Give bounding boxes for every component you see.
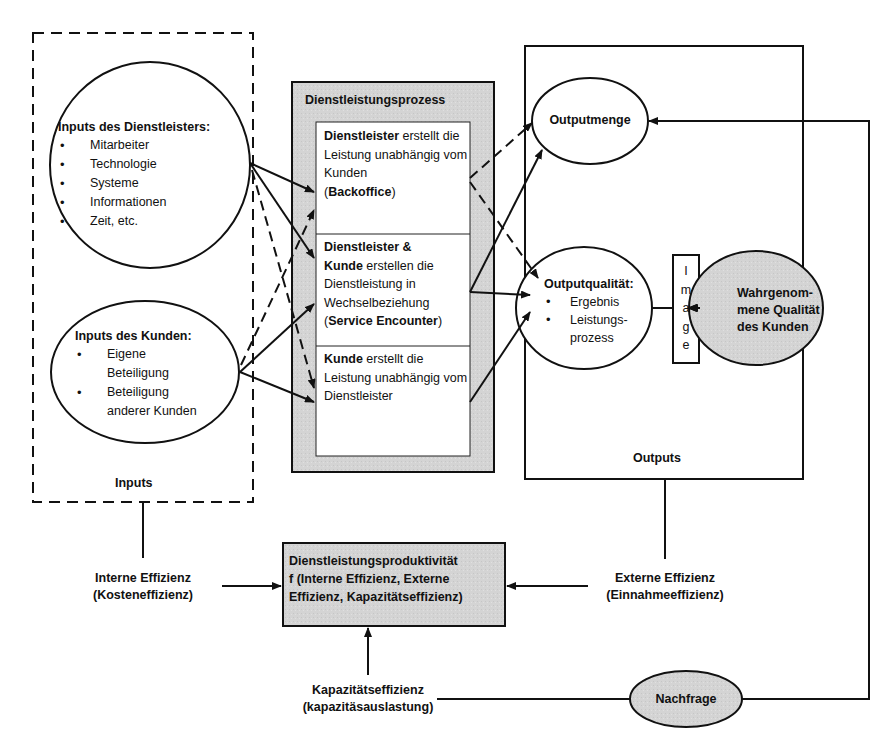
image-letter: m <box>673 281 699 300</box>
customer-input-line: Beteiligung <box>107 385 169 399</box>
provider-inputs-block: Inputs des Dienstleisters: Mitarbeiter T… <box>58 119 258 231</box>
output-quality-item: Ergebnis <box>544 293 654 311</box>
process-title: Dienstleistungsprozess <box>305 92 445 109</box>
provider-inputs-title: Inputs des Dienstleisters: <box>58 119 258 136</box>
process-cell-bold: Dienstleister & <box>324 240 412 254</box>
customer-input-item: Beteiligunganderer Kunden <box>75 383 235 421</box>
output-quality-line: Leistungs- <box>570 313 628 327</box>
image-letter: a <box>673 299 699 318</box>
process-cell-bold: Service Encounter <box>328 314 438 328</box>
provider-input-item: Systeme <box>58 174 258 193</box>
inputs-group-label: Inputs <box>115 475 153 492</box>
image-letter: g <box>673 318 699 337</box>
customer-input-line: anderer Kunden <box>107 404 197 418</box>
process-cell-bold: Backoffice <box>328 185 391 199</box>
capacity-efficiency-line: (kapazitäsauslastung) <box>298 699 438 716</box>
image-letter: e <box>673 336 699 355</box>
process-cell-bold: Dienstleister <box>324 129 399 143</box>
process-cell-service-encounter: Dienstleister &Kunde erstellen die Diens… <box>324 238 470 331</box>
external-efficiency-line: (Einnahmeeffizienz) <box>590 587 740 604</box>
internal-efficiency-line: Interne Effizienz <box>78 570 208 587</box>
image-letter: I <box>673 262 699 281</box>
capacity-efficiency-line: Kapazitätseffizienz <box>298 682 438 699</box>
process-cell-customer: Kunde erstellt die Leistung unabhängig v… <box>324 350 470 406</box>
outputs-group-label: Outputs <box>633 450 681 467</box>
output-quality-line: Ergebnis <box>570 295 619 309</box>
internal-efficiency-label: Interne Effizienz (Kosteneffizienz) <box>78 570 208 604</box>
paren: ) <box>438 314 442 328</box>
image-label: I m a g e <box>673 262 699 355</box>
perceived-quality-line: des Kunden <box>737 319 827 336</box>
capacity-efficiency-label: Kapazitätseffizienz (kapazitäsauslastung… <box>298 682 438 716</box>
customer-inputs-title: Inputs des Kunden: <box>75 328 235 345</box>
provider-input-item: Zeit, etc. <box>58 212 258 231</box>
demand-label: Nachfrage <box>636 691 736 708</box>
external-efficiency-line: Externe Effizienz <box>590 570 740 587</box>
productivity-label: Dienstleistungsproduktivität f (Interne … <box>289 552 504 606</box>
output-quality-title: Outputqualität: <box>544 276 654 293</box>
demand-feedback-line <box>660 121 869 699</box>
output-quality-block: Outputqualität: Ergebnis Leistungs-proze… <box>544 276 654 347</box>
provider-input-item: Informationen <box>58 193 258 212</box>
process-cell-bold: Kunde <box>324 259 363 273</box>
customer-input-line: Eigene <box>107 347 146 361</box>
productivity-line: Effizienz, Kapazitätseffizienz) <box>289 588 504 606</box>
paren: ) <box>391 185 395 199</box>
output-quantity-label: Outputmenge <box>532 112 648 129</box>
productivity-line: f (Interne Effizienz, Externe <box>289 570 504 588</box>
customer-input-item: EigeneBeteiligung <box>75 345 235 383</box>
perceived-quality-label: Wahrgenom- mene Qualität des Kunden <box>737 285 827 336</box>
provider-input-item: Technologie <box>58 155 258 174</box>
customer-input-line: Beteiligung <box>107 366 169 380</box>
output-quality-list: Ergebnis Leistungs-prozess <box>544 293 654 347</box>
output-quality-item: Leistungs-prozess <box>544 311 654 347</box>
provider-inputs-list: Mitarbeiter Technologie Systeme Informat… <box>58 136 258 231</box>
process-cell-bold: Kunde <box>324 352 363 366</box>
productivity-line: Dienstleistungsproduktivität <box>289 552 504 570</box>
perceived-quality-line: mene Qualität <box>737 302 827 319</box>
customer-inputs-list: EigeneBeteiligung Beteiligunganderer Kun… <box>75 345 235 421</box>
provider-input-item: Mitarbeiter <box>58 136 258 155</box>
internal-efficiency-line: (Kosteneffizienz) <box>78 587 208 604</box>
external-efficiency-label: Externe Effizienz (Einnahmeeffizienz) <box>590 570 740 604</box>
customer-inputs-block: Inputs des Kunden: EigeneBeteiligung Bet… <box>75 328 235 421</box>
process-cell-backoffice: Dienstleister erstellt die Leistung unab… <box>324 127 470 201</box>
output-quality-line: prozess <box>570 331 614 345</box>
perceived-quality-line: Wahrgenom- <box>737 285 827 302</box>
